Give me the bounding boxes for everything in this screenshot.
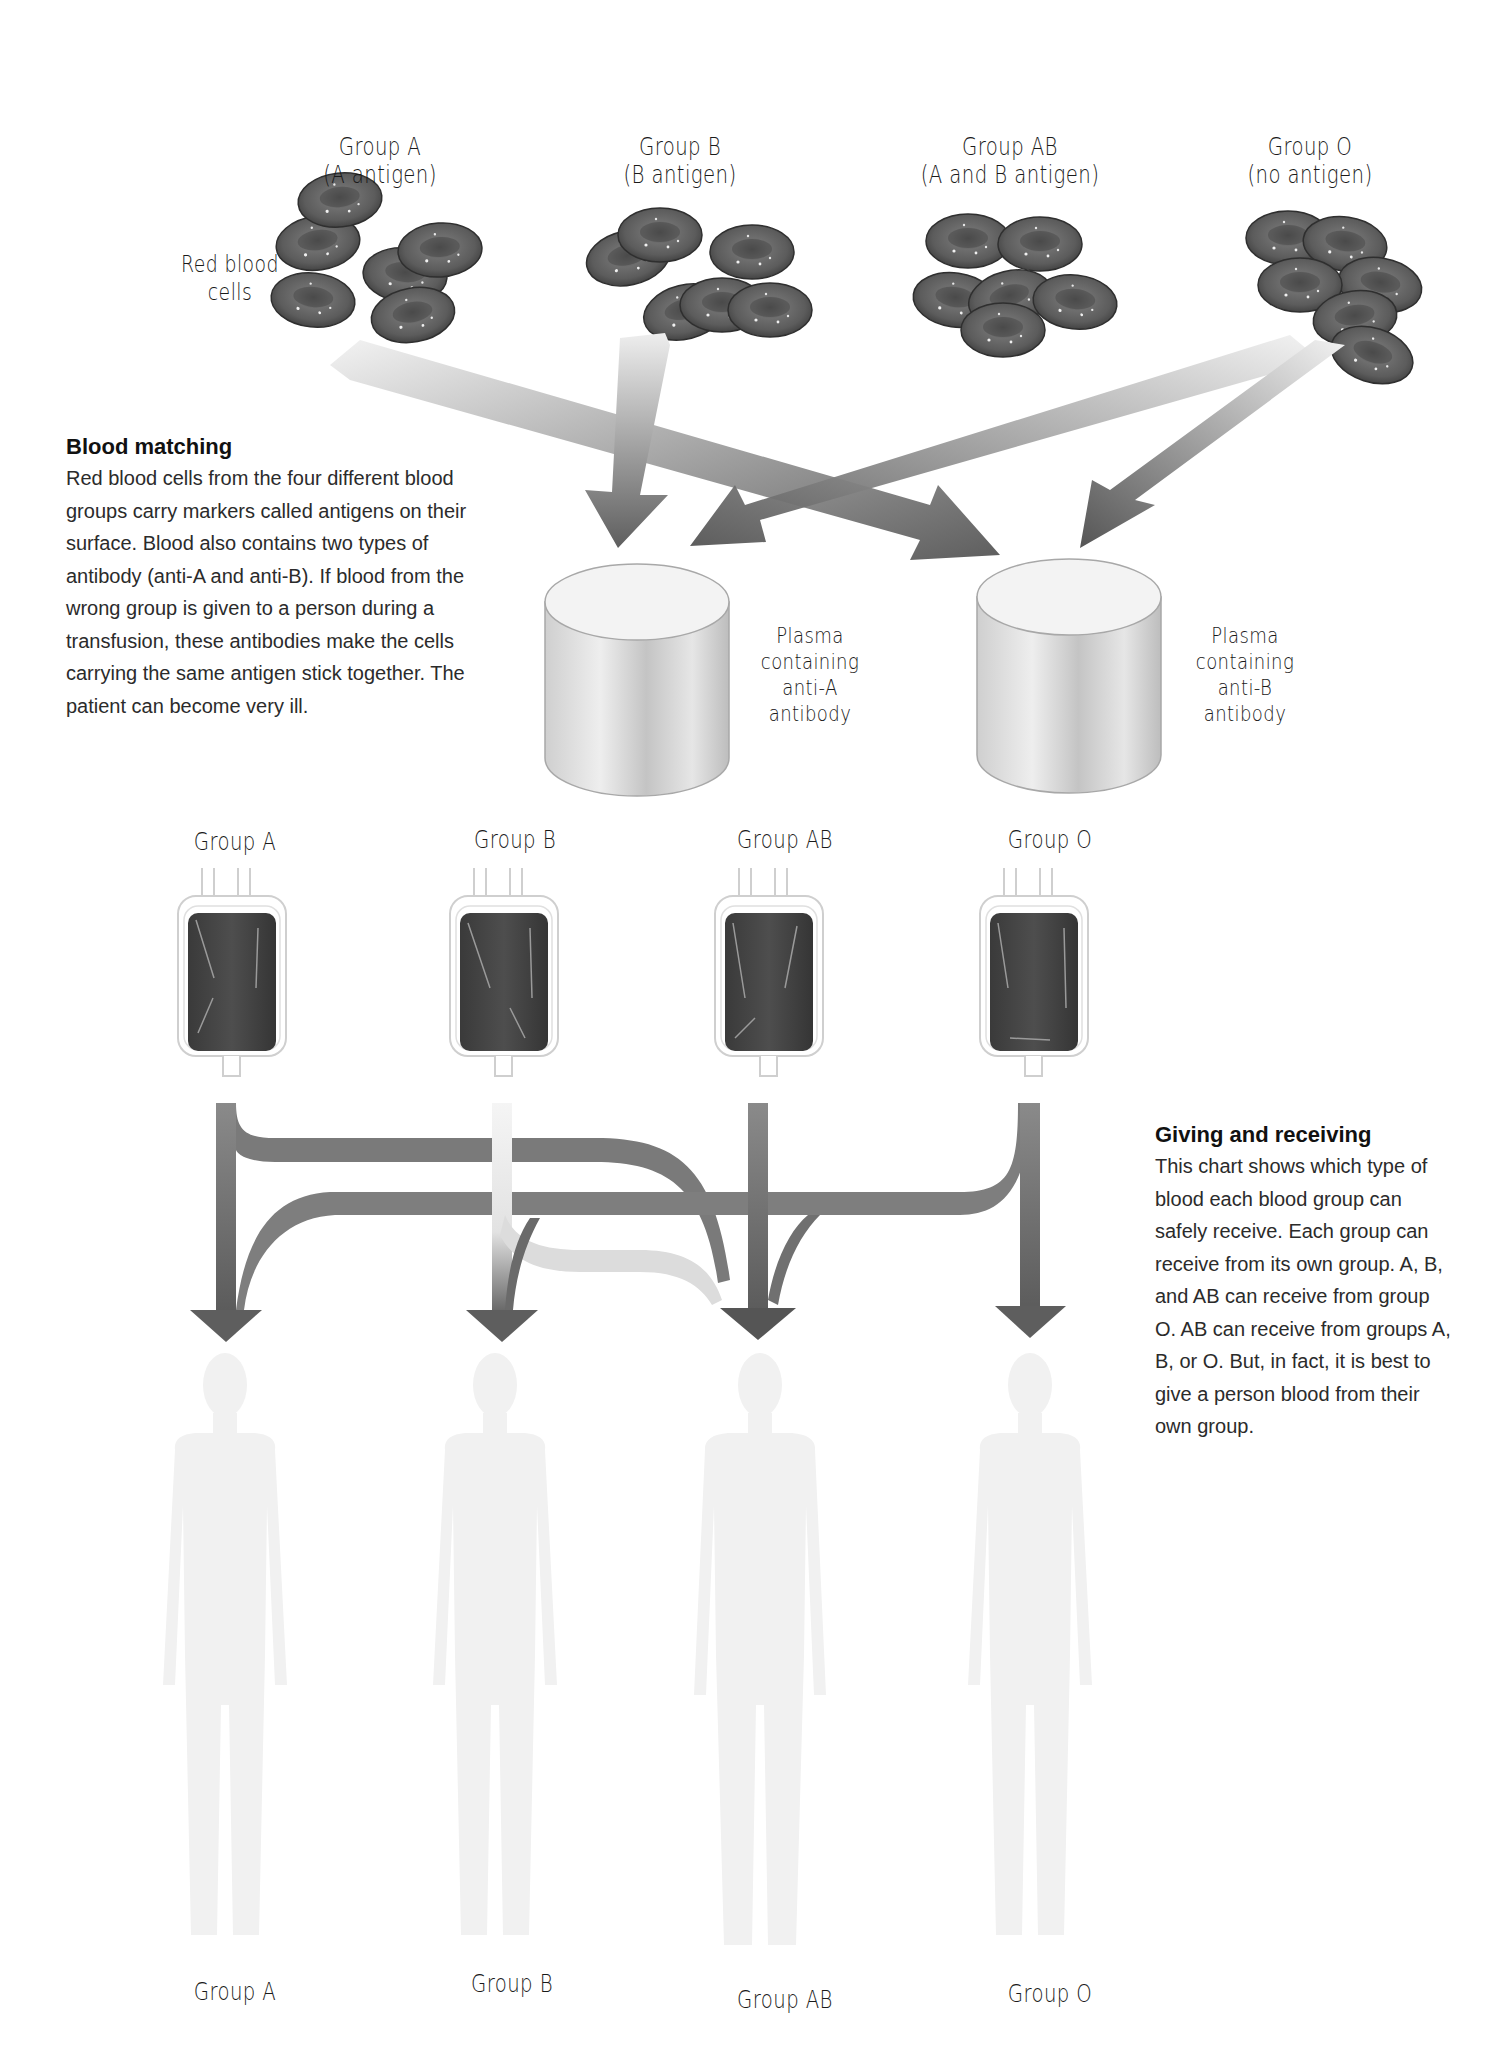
- bag-label-b: Group B: [462, 826, 569, 854]
- recipient-label-b: Group B: [459, 1970, 566, 1998]
- group-antigen: (A antigen): [298, 161, 462, 189]
- human-figure-b: [433, 1353, 557, 1935]
- group-antigen: (no antigen): [1228, 161, 1392, 189]
- blood-bag-o: [980, 868, 1088, 1076]
- diagram-graphics: [0, 0, 1501, 2057]
- blood-bag-a: [178, 868, 286, 1076]
- recipient-figures: [163, 1353, 1092, 1945]
- recipient-label-o: Group O: [997, 1980, 1104, 2008]
- blood-bag-b: [450, 868, 558, 1076]
- blood-matching-title: Blood matching: [66, 432, 506, 462]
- group-o-header: Group O (no antigen): [1228, 133, 1392, 189]
- blood-matching-section: Blood matching Red blood cells from the …: [66, 432, 506, 722]
- red-cells-group-a: [268, 169, 483, 349]
- group-name: Group A: [298, 133, 462, 161]
- blood-bag-ab: [715, 868, 823, 1076]
- red-cells-group-ab: [910, 214, 1120, 357]
- plasma-anti-b-label: Plasma containing anti-B antibody: [1192, 623, 1299, 727]
- recipient-label-ab: Group AB: [728, 1986, 843, 2014]
- bag-label-ab: Group AB: [728, 826, 843, 854]
- plasma-anti-a-label: Plasma containing anti-A antibody: [757, 623, 864, 727]
- plasma-cylinder-anti-b: [977, 559, 1161, 793]
- blood-bags: [178, 868, 1088, 1076]
- giving-receiving-text: This chart shows which type of blood eac…: [1155, 1150, 1455, 1443]
- red-blood-cells-label: Red blood cells: [173, 250, 288, 306]
- group-b-header: Group B (B antigen): [598, 133, 762, 189]
- red-cells-group-b: [581, 208, 812, 348]
- group-antigen: (A and B antigen): [895, 161, 1125, 189]
- human-figure-o: [968, 1353, 1092, 1935]
- bag-label-o: Group O: [997, 826, 1104, 854]
- group-name: Group AB: [895, 133, 1125, 161]
- group-a-header: Group A (A antigen): [298, 133, 462, 189]
- group-name: Group B: [598, 133, 762, 161]
- group-antigen: (B antigen): [598, 161, 762, 189]
- recipient-label-a: Group A: [182, 1978, 289, 2006]
- giving-receiving-section: Giving and receiving This chart shows wh…: [1155, 1120, 1455, 1443]
- human-figure-a: [163, 1353, 287, 1935]
- blood-matching-text: Red blood cells from the four different …: [66, 462, 506, 722]
- giving-receiving-title: Giving and receiving: [1155, 1120, 1455, 1150]
- plasma-cylinder-anti-a: [545, 564, 729, 796]
- group-name: Group O: [1228, 133, 1392, 161]
- bag-label-a: Group A: [182, 828, 289, 856]
- human-figure-ab: [694, 1353, 826, 1945]
- group-ab-header: Group AB (A and B antigen): [895, 133, 1125, 189]
- transfusion-flow-chart: [190, 1103, 1066, 1342]
